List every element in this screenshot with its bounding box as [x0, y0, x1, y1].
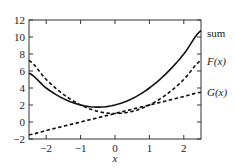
y-tick-label: 2: [20, 99, 26, 111]
y-axis-ticks: −2024681012: [13, 14, 201, 145]
function-plot: −2−1012 −2024681012 x sum F(x) G(x): [0, 0, 235, 168]
y-tick-label: 8: [20, 48, 26, 60]
y-tick-label: 6: [20, 65, 26, 77]
y-tick-label: 0: [20, 116, 26, 128]
y-tick-label: 10: [14, 31, 26, 43]
x-tick-label: 2: [181, 142, 187, 154]
y-tick-label: 4: [20, 82, 26, 94]
curves: [29, 31, 201, 135]
x-tick-label: −1: [75, 142, 87, 154]
x-axis-label: x: [112, 152, 118, 164]
y-tick-label: −2: [13, 133, 25, 145]
plot-border: [29, 20, 201, 139]
y-tick-label: 12: [14, 14, 25, 26]
x-tick-label: −2: [40, 142, 52, 154]
series-label-sum: sum: [207, 27, 226, 39]
x-tick-label: 1: [147, 142, 153, 154]
curve-sum: [29, 31, 201, 108]
x-axis-ticks: −2−1012: [40, 20, 186, 154]
series-label-G: G(x): [207, 86, 227, 99]
plot-frame: [29, 20, 201, 139]
series-label-F: F(x): [206, 55, 226, 68]
